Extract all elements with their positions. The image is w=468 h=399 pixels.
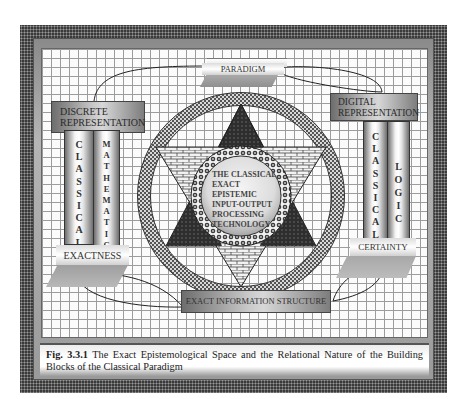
logic-column: LOGIC xyxy=(387,121,410,239)
classical-column-left: CLASSICAL xyxy=(64,130,94,245)
center-line: PROCESSING xyxy=(212,210,282,220)
discrete-representation-label: DISCRETE REPRESENTATION xyxy=(60,106,145,128)
center-line: EXACT xyxy=(212,180,282,190)
caption-text: The Exact Epistemological Space and the … xyxy=(46,349,423,372)
center-line: TECHNOLOGY xyxy=(212,220,282,230)
certainty-slab: CERTAINTY xyxy=(350,238,416,256)
exact-information-structure-bar: EXACT INFORMATION STRUCTURE xyxy=(181,290,331,313)
certainty-slab-base xyxy=(336,256,416,278)
digital-representation-label: DIGITAL REPRESENTATION xyxy=(338,97,419,118)
figure-caption: Fig. 3.3.1 The Exact Epistemological Spa… xyxy=(40,343,429,376)
mathematics-column: MATHEMATICS xyxy=(93,130,120,247)
center-line: EPISTEMIC xyxy=(212,190,282,200)
caption-label: Fig. 3.3.1 xyxy=(46,349,88,360)
paradigm-banner: PARADIGM xyxy=(202,63,284,75)
center-technology-label: THE CLASSICAL EXACT EPISTEMIC INPUT-OUTP… xyxy=(212,170,282,230)
exactness-slab: EXACTNESS xyxy=(56,245,129,265)
discrete-representation-header: DISCRETE REPRESENTATION xyxy=(51,101,145,133)
paradigm-banner-shadow xyxy=(200,75,278,87)
digital-representation-header: DIGITAL REPRESENTATION xyxy=(330,93,418,121)
center-line: INPUT-OUTPUT xyxy=(212,200,282,210)
center-line: THE CLASSICAL xyxy=(212,170,282,180)
exactness-slab-base xyxy=(46,265,128,287)
classical-column-right: CLASSICAL xyxy=(363,121,388,239)
